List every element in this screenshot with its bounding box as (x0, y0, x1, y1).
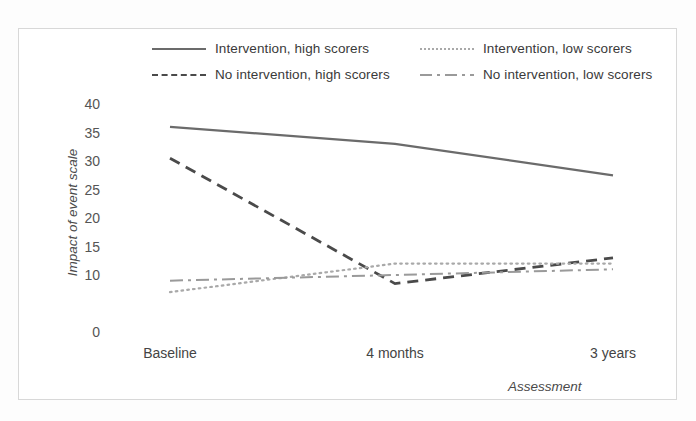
y-axis-tick-label: 20 (60, 211, 100, 225)
legend-swatch-dashed-icon (152, 74, 206, 78)
legend-label: Intervention, high scorers (215, 38, 369, 60)
legend-label: No intervention, high scorers (215, 64, 390, 86)
legend-swatch-solid-icon (152, 48, 206, 52)
legend-swatch-dashdot-icon (420, 74, 474, 76)
legend-label: Intervention, low scorers (483, 38, 632, 60)
x-axis-tick-label: 3 years (590, 345, 636, 361)
y-axis-tick-labels: 403530252015100 (58, 0, 100, 421)
x-axis-title: Assessment (508, 379, 582, 394)
x-axis-tick-label: Baseline (143, 345, 197, 361)
y-axis-tick-label: 15 (60, 240, 100, 254)
y-axis-tick-label: 30 (60, 154, 100, 168)
y-axis-tick-label: 40 (60, 97, 100, 111)
chart-legend: Intervention, high scorers Intervention,… (152, 38, 652, 88)
y-axis-tick-label: 35 (60, 126, 100, 140)
x-axis-tick-label: 4 months (366, 345, 424, 361)
legend-swatch-dotted-icon (420, 48, 474, 52)
y-axis-tick-label: 10 (60, 268, 100, 282)
legend-label: No intervention, low scorers (483, 64, 652, 86)
chart-figure: Intervention, high scorers Intervention,… (0, 0, 696, 421)
y-axis-tick-label: 0 (60, 325, 100, 339)
y-axis-tick-label: 25 (60, 183, 100, 197)
